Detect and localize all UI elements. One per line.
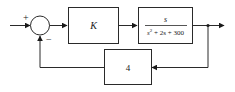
minus-sign: − [46,34,52,45]
feedback-gain-label: 4 [126,63,131,73]
controller-gain-label: K [89,20,98,31]
plant-numerator: s [164,15,167,24]
plus-sign: + [23,12,29,23]
block-diagram: + − K s s2 + 2s + 300 4 [0,0,235,92]
plant-denominator: s2 + 2s + 300 [147,28,184,37]
summing-junction [31,16,50,35]
